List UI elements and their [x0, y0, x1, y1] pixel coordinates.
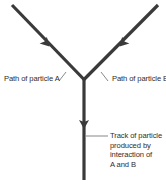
- label-product-line-3: interaction of: [110, 150, 166, 160]
- label-particle-b: Path of particle B: [112, 74, 166, 84]
- label-product-line-2: produced by: [110, 141, 166, 151]
- label-product-track: Track of particle produced by interactio…: [110, 131, 166, 169]
- label-particle-a: Path of particle A: [4, 74, 60, 84]
- particle-interaction-diagram: Path of particle A Path of particle B Tr…: [0, 0, 166, 184]
- label-product-line-1: Track of particle: [110, 131, 166, 141]
- leader-line-a: [59, 72, 66, 81]
- label-product-line-4: A and B: [110, 160, 166, 170]
- leader-line-b: [101, 72, 108, 81]
